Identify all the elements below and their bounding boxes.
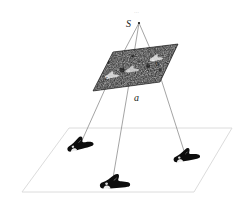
apex-point xyxy=(138,22,140,24)
figure-canvas: c b S a … xyxy=(0,0,248,211)
image-plane-texture xyxy=(90,42,182,94)
projection-diagram: c b S a … xyxy=(0,0,248,211)
apex-label: S xyxy=(126,18,131,29)
plane-point-label-left: c xyxy=(105,75,108,81)
image-plane xyxy=(90,42,182,94)
top-tick-label: … xyxy=(134,9,139,14)
plane-point-label-right: b xyxy=(156,61,159,67)
plane-label: a xyxy=(134,92,139,103)
